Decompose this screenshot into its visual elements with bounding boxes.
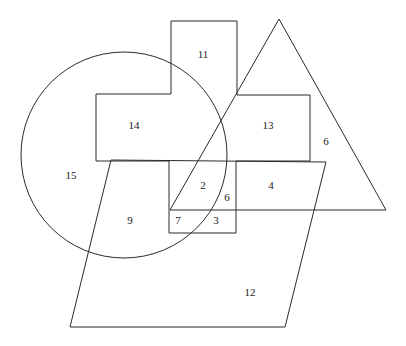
region-label-7: 7 (175, 214, 181, 226)
region-label-15: 15 (66, 169, 78, 181)
region-label-6-triangle: 6 (323, 135, 329, 147)
region-label-13: 13 (263, 119, 275, 131)
geometry-figure-canvas: 11 14 13 6 15 2 6 4 9 7 3 12 (0, 0, 406, 346)
region-label-6-small: 6 (224, 191, 230, 203)
region-label-3: 3 (213, 214, 219, 226)
region-label-9: 9 (127, 214, 133, 226)
region-label-14: 14 (129, 119, 141, 131)
region-label-12: 12 (245, 286, 256, 298)
shape-circle (21, 52, 227, 258)
region-label-2: 2 (200, 179, 206, 191)
region-label-11: 11 (198, 48, 209, 60)
geometry-figure-svg: 11 14 13 6 15 2 6 4 9 7 3 12 (0, 0, 406, 346)
region-label-4: 4 (268, 179, 274, 191)
shape-parallelogram (70, 160, 326, 327)
